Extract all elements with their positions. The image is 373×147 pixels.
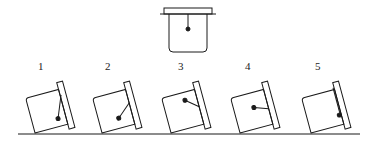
position-label-4: 4 [245,60,251,72]
position-label-3: 3 [178,60,184,72]
position-label-1: 1 [38,60,44,72]
pendulum-bob-3 [183,98,188,103]
reference-lid [164,8,212,14]
pendulum-string-1 [52,95,66,119]
position-label-2: 2 [105,60,111,72]
position-label-5: 5 [315,60,321,72]
container-5 [300,81,351,138]
container-4 [229,81,280,138]
pendulum-bob-4 [251,105,256,110]
pendulum-bob-1 [56,116,61,121]
container-1 [24,81,75,138]
pendulum-diagram [0,0,373,147]
pendulum-bob-2 [116,116,121,121]
reference-bob [186,27,190,31]
container-3 [160,81,211,138]
container-2 [91,81,142,138]
pendulum-bob-5 [337,113,342,118]
reference-container [160,8,216,52]
pendulum-string-5 [333,88,340,113]
